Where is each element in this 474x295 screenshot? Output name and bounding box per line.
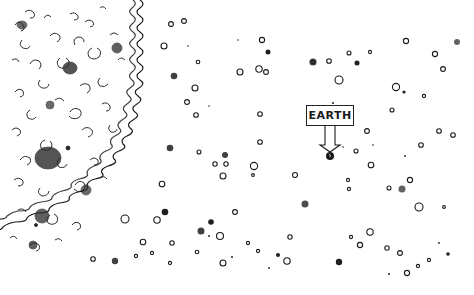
space-illustration [0, 0, 474, 295]
dense-clumps [17, 21, 122, 249]
debris-cloud [10, 7, 125, 251]
open-circles [91, 19, 456, 276]
wavy-front-boundary [0, 0, 143, 240]
earth-label: EARTH [306, 105, 354, 126]
earth-marker [320, 126, 340, 160]
dark-dots [112, 39, 460, 275]
